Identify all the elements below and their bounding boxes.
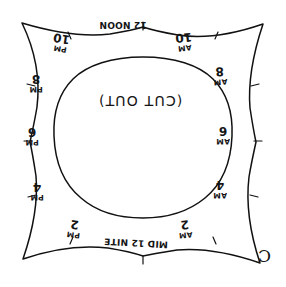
inner-oval-cutout-outline xyxy=(54,57,232,218)
sundial-template-sheet: 12 NOON PM 10 PM 8 PM 6 PM 4 PM 2 MID 12… xyxy=(0,0,286,287)
tick-mark-4pm xyxy=(28,195,36,197)
tick-mark-2am xyxy=(213,237,216,244)
sheet-corner-mark-c: C xyxy=(258,246,271,266)
tick-mark-8pm xyxy=(27,84,35,86)
tick-mark-8am xyxy=(251,84,259,86)
outer-star-outline xyxy=(22,23,263,263)
dial-outline-drawing xyxy=(0,0,286,287)
tick-mark-2pm xyxy=(70,237,73,244)
tick-mark-4am xyxy=(250,195,258,197)
